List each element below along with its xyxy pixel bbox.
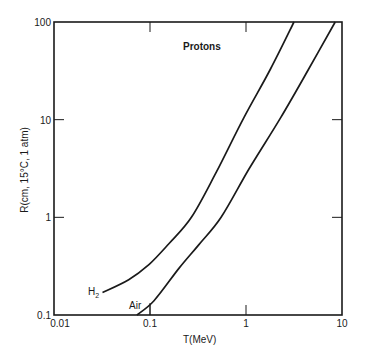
data-curves: [103, 22, 336, 315]
x-tick-label: 10: [336, 318, 348, 329]
y-tick-label: 100: [34, 17, 51, 28]
axis-ticks: 0.010.11100.1110100: [34, 17, 348, 329]
range-energy-chart: 0.010.11100.1110100 Protons T(MeV) R(cm,…: [0, 0, 366, 357]
air-curve-label: Air: [129, 300, 142, 311]
h2-curve-label: H2: [88, 286, 99, 299]
y-tick-label: 10: [40, 115, 52, 126]
x-tick-label: 0.01: [50, 318, 70, 329]
y-axis-label: R(cm, 15°C, 1 atm): [19, 127, 30, 213]
x-tick-label: 1: [243, 318, 249, 329]
y-tick-label: 0.1: [37, 310, 51, 321]
air-curve: [137, 22, 335, 315]
h2-curve: [103, 22, 295, 293]
chart-title: Protons: [183, 41, 221, 52]
plot-frame: [54, 22, 342, 315]
axes-box: [54, 22, 342, 315]
y-tick-label: 1: [45, 212, 51, 223]
x-axis-label: T(MeV): [183, 334, 216, 345]
x-tick-label: 0.1: [143, 318, 157, 329]
